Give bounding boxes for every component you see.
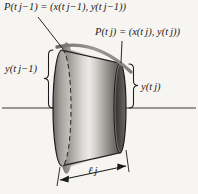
leader-line-point-previous bbox=[38, 17, 63, 49]
label-radius-current: y(t j) bbox=[141, 82, 161, 93]
right-circular-face bbox=[114, 63, 126, 153]
leader-line-point-current bbox=[121, 41, 122, 63]
label-point-previous: P(t j−1) = (x(t j−1), y(t j−1)) bbox=[4, 2, 126, 13]
frustum-figure: P(t j−1) = (x(t j−1), y(t j−1)) P(t j) =… bbox=[0, 0, 198, 194]
label-slant-length: ℓ j bbox=[88, 166, 97, 177]
label-point-current: P(t j) = (x(t j), y(t j)) bbox=[95, 27, 180, 38]
label-radius-previous: y(t j−1) bbox=[5, 64, 37, 75]
brace-radius-previous bbox=[44, 50, 53, 108]
left-circular-face bbox=[53, 50, 71, 166]
